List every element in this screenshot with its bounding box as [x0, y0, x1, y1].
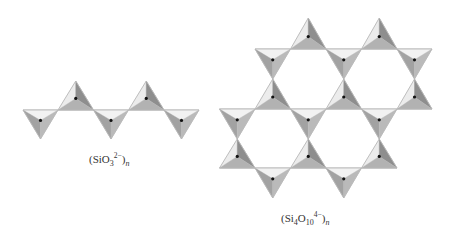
sheet-formula-subscript-o: 10: [306, 218, 314, 227]
tetrahedron-down: [326, 49, 362, 79]
tetrahedron-down: [397, 49, 432, 79]
silicon-atom-dot: [180, 119, 183, 122]
tetrahedron-down: [164, 110, 199, 139]
tetrahedron-up: [129, 81, 165, 110]
silicon-atom-dot: [109, 119, 112, 122]
silicon-atom-dot: [145, 97, 148, 100]
chain-formula-prefix: (SiO: [89, 153, 110, 165]
sheet-formula-charge: 4−: [314, 210, 322, 219]
silicate-structures-diagram: [0, 0, 455, 236]
silicon-atom-dot: [342, 58, 345, 61]
chain-formula-charge: 2−: [114, 151, 122, 160]
silicon-atom-dot: [74, 97, 77, 100]
silicon-atom-dot: [378, 155, 381, 158]
silicon-atom-dot: [413, 58, 416, 61]
sheet-formula-n: n: [325, 218, 329, 227]
silicon-atom-dot: [39, 119, 42, 122]
tetrahedron-up: [291, 18, 327, 49]
tetrahedron-up: [220, 139, 256, 168]
tetrahedron-up: [362, 18, 398, 49]
tetrahedron-up: [58, 81, 94, 110]
silicon-atom-dot: [271, 177, 274, 180]
tetrahedron-up: [397, 79, 432, 109]
silicon-atom-dot: [307, 35, 310, 38]
tetrahedron-up: [291, 139, 327, 168]
single-chain-silicate: [23, 81, 199, 139]
tetrahedron-up: [255, 79, 291, 109]
chain-formula-label: (SiO32−)n: [89, 151, 129, 168]
tetrahedron-down: [255, 168, 291, 198]
tetrahedron-up: [362, 139, 398, 168]
silicon-atom-dot: [378, 35, 381, 38]
silicon-atom-dot: [236, 155, 239, 158]
tetrahedron-down: [362, 109, 398, 139]
silicon-atom-dot: [413, 95, 416, 98]
silicon-atom-dot: [378, 118, 381, 121]
silicon-atom-dot: [271, 58, 274, 61]
sheet-silicate: [220, 18, 433, 198]
tetrahedron-down: [220, 109, 256, 139]
silicon-atom-dot: [307, 118, 310, 121]
tetrahedron-down: [326, 168, 362, 198]
sheet-formula-label: (Si4O104−)n: [281, 210, 329, 227]
tetrahedron-down: [23, 110, 58, 139]
sheet-formula-prefix: (Si: [281, 212, 294, 224]
sheet-formula-oxygen: O: [298, 212, 306, 224]
silicon-atom-dot: [271, 95, 274, 98]
tetrahedron-down: [94, 110, 129, 139]
silicon-atom-dot: [342, 95, 345, 98]
tetrahedron-up: [326, 79, 362, 109]
tetrahedron-down: [255, 49, 291, 79]
silicon-atom-dot: [236, 118, 239, 121]
chain-formula-subscript: 3: [110, 159, 114, 168]
chain-formula-n: n: [125, 159, 129, 168]
silicon-atom-dot: [307, 155, 310, 158]
silicon-atom-dot: [342, 177, 345, 180]
tetrahedron-down: [291, 109, 327, 139]
